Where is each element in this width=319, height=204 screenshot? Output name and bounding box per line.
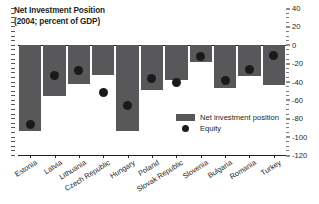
y-left-tick (11, 77, 15, 78)
y-minor-tick (286, 95, 289, 96)
data-column (262, 45, 286, 155)
data-column (164, 45, 188, 155)
y-left-tick (11, 109, 15, 110)
chart-subtitle: (2004; percent of GDP) (14, 16, 105, 27)
y-tick-label: -100 (286, 132, 307, 141)
x-tick (55, 155, 56, 158)
y-minor-tick (286, 127, 289, 128)
data-column (18, 45, 42, 155)
data-column (42, 45, 66, 155)
y-left-tick (11, 91, 15, 92)
y-left-tick (11, 82, 15, 83)
y-left-tick (11, 63, 15, 64)
data-column (140, 45, 164, 155)
y-left-tick (11, 72, 15, 73)
y-left-tick (11, 22, 15, 23)
x-tick (176, 155, 177, 158)
plot-area (18, 45, 284, 155)
x-tick (274, 155, 275, 158)
bar-lithuania (68, 45, 90, 84)
y-minor-tick (286, 77, 289, 78)
y-tick-label: -40 (286, 77, 303, 86)
y-minor-tick (286, 40, 289, 41)
bar-estonia (19, 45, 41, 131)
y-left-tick (11, 8, 15, 9)
chart-legend: Net investment position Equity (176, 112, 279, 134)
y-left-tick (11, 31, 15, 32)
y-tick-label: 20 (286, 22, 300, 31)
y-minor-tick (286, 86, 289, 87)
y-left-tick (11, 123, 15, 124)
y-minor-tick (286, 13, 289, 14)
x-tick (249, 155, 250, 158)
y-left-tick (11, 86, 15, 87)
y-left-tick (11, 40, 15, 41)
y-minor-tick (286, 109, 289, 110)
y-minor-tick (286, 146, 289, 147)
y-tick-label: 0 (286, 40, 296, 49)
y-left-tick (11, 95, 15, 96)
bar-czech-republic (92, 45, 114, 75)
y-left-tick (11, 146, 15, 147)
y-tick-label: -60 (286, 95, 303, 104)
bar-slovak-republic (165, 45, 187, 80)
y-minor-tick (286, 141, 289, 142)
equity-dot-estonia (26, 120, 35, 129)
equity-dot-latvia (50, 71, 59, 80)
y-axis: 40200-20-40-60-80-100-120 (286, 0, 319, 204)
equity-dot-bulgaria (221, 76, 230, 85)
x-label-turkey: Turkey (259, 158, 283, 177)
x-tick (201, 155, 202, 158)
y-left-tick (11, 155, 15, 156)
y-minor-tick (286, 31, 289, 32)
y-left-tick (11, 104, 15, 105)
x-tick (128, 155, 129, 158)
data-column (115, 45, 139, 155)
y-minor-tick (286, 54, 289, 55)
legend-bar-swatch-icon (176, 114, 195, 121)
y-tick-label: -20 (286, 59, 303, 68)
y-minor-tick (286, 72, 289, 73)
y-left-tick (11, 45, 15, 46)
y-minor-tick (286, 59, 289, 60)
y-minor-tick (286, 36, 289, 37)
bar-poland (141, 45, 163, 90)
y-left-tick (11, 54, 15, 55)
legend-label-net-investment-position: Net investment position (200, 113, 279, 122)
y-tick-label: 40 (286, 4, 300, 13)
y-left-tick (11, 100, 15, 101)
y-left-tick (11, 36, 15, 37)
net-investment-position-chart: Net Investment Position (2004; percent o… (0, 0, 319, 204)
y-tick-label: -80 (286, 114, 303, 123)
y-minor-tick (286, 132, 289, 133)
equity-dot-slovak-republic (172, 78, 181, 87)
y-left-tick (11, 114, 15, 115)
y-left-tick (11, 68, 15, 69)
y-left-tick (11, 17, 15, 18)
y-left-tick (11, 13, 15, 14)
equity-dot-czech-republic (99, 88, 108, 97)
legend-item-equity: Equity (176, 123, 279, 134)
y-minor-tick (286, 17, 289, 18)
data-column (213, 45, 237, 155)
y-minor-tick (286, 49, 289, 50)
legend-label-equity: Equity (200, 124, 221, 133)
y-minor-tick (286, 104, 289, 105)
chart-title: Net Investment Position (14, 5, 105, 16)
data-column (67, 45, 91, 155)
y-minor-tick (286, 91, 289, 92)
legend-dot-swatch-icon (176, 125, 195, 132)
x-tick (225, 155, 226, 158)
y-left-tick (11, 118, 15, 119)
x-label-romania: Romania (228, 158, 258, 181)
y-left-tick (11, 150, 15, 151)
data-column (189, 45, 213, 155)
equity-dot-turkey (269, 51, 278, 60)
data-column (237, 45, 261, 155)
y-minor-tick (286, 68, 289, 69)
x-label-estonia: Estonia (13, 158, 39, 179)
y-left-tick (11, 49, 15, 50)
x-tick (79, 155, 80, 158)
y-left-tick (11, 127, 15, 128)
y-left-tick (11, 137, 15, 138)
